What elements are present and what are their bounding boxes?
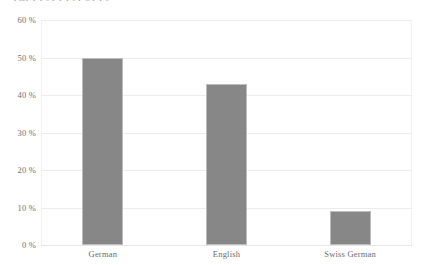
bar-german[interactable]	[82, 58, 123, 246]
y-tick-label: 30 %	[17, 128, 36, 138]
y-tick-label: 20 %	[17, 165, 36, 175]
cropped-caption-sliver: pgjy p p j y y p j p g y p j	[0, 0, 424, 7]
bar-english[interactable]	[206, 84, 247, 245]
y-tick-label: 0 %	[22, 240, 36, 250]
y-tick-label: 60 %	[17, 15, 36, 25]
cropped-caption-text: pgjy p p j y y p j p g y p j	[14, 0, 109, 1]
bar-swiss-german[interactable]	[330, 211, 371, 245]
y-tick-label: 10 %	[17, 203, 36, 213]
y-tick-label: 40 %	[17, 90, 36, 100]
y-axis: 0 %10 %20 %30 %40 %50 %60 %	[0, 20, 36, 245]
bars-group	[41, 20, 412, 245]
x-tick-label-english: English	[213, 249, 240, 259]
x-axis: GermanEnglishSwiss German	[41, 245, 412, 265]
y-tick-label: 50 %	[17, 53, 36, 63]
bar-chart: 0 %10 %20 %30 %40 %50 %60 % GermanEnglis…	[0, 8, 424, 265]
x-tick-label-german: German	[89, 249, 118, 259]
x-tick-label-swiss-german: Swiss German	[324, 249, 376, 259]
